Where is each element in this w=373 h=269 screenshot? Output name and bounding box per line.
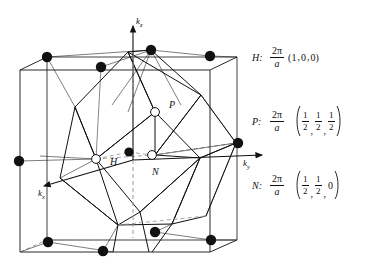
paren-close: ) [315,52,318,63]
lattice-point [42,52,52,62]
legend-coords-P: 1 2 , 1 2 , 1 2 [294,105,343,137]
coord-separator: , [310,125,315,136]
connector-h-lowleft [60,159,96,178]
coord-value: 0 [327,180,334,191]
bz-edge-lower-left [60,178,118,225]
connector-dot-to-h [96,67,101,159]
figure-canvas: kz ky kx P H N H: 2π a ( 1 , 0 , 0 ) [0,0,373,269]
prefactor-fraction-H: 2π a [270,46,284,69]
prefactor-fraction-N: 2π a [270,174,284,197]
point-label-P: P [169,99,175,110]
legend-symbol-P: P: [252,116,268,127]
legend-row-H: H: 2π a ( 1 , 0 , 0 ) [252,40,373,74]
cube-back-face [47,57,237,240]
bz-face-lower-right [172,143,236,224]
lattice-point [14,156,24,166]
coord-fraction: 1 2 [315,175,322,196]
bz-face-lower [118,158,200,225]
lattice-point [146,45,156,55]
connector-top-6 [151,50,210,56]
connector-h-left [19,159,96,161]
bz-edge-to-bottom-2 [140,212,149,252]
lattice-point [205,51,215,61]
ky-axis-label: ky [243,158,250,170]
kx-axis [44,160,133,186]
coord-separator: , [310,188,315,199]
prefactor-fraction-P: 2π a [270,110,284,133]
lattice-point [43,237,53,247]
kz-axis-label: kz [136,16,143,28]
coord-fraction: 1 2 [302,175,309,196]
lattice-point [233,138,243,148]
coord-separator: , [296,51,301,62]
coord-fraction: 1 2 [315,111,322,132]
connector-h-left2 [40,156,96,159]
connector-top-2 [112,50,151,105]
coord-separator: , [323,188,328,199]
symmetry-point-N [148,151,157,160]
lattice-point [206,235,216,245]
paren-close-big [336,105,343,137]
connector-corner-left [47,57,75,107]
symmetry-point-legend: H: 2π a ( 1 , 0 , 0 ) P: 2π a [252,40,373,232]
paren-open-big [294,170,301,200]
coord-separator: , [323,125,328,136]
lattice-point [96,62,106,72]
lattice-point [150,227,160,237]
connector-top-5 [151,50,181,105]
point-label-N: N [152,166,159,177]
legend-symbol-H: H: [252,52,268,63]
lattice-point-center [124,147,133,156]
coord-fraction: 1 2 [302,111,309,132]
connector-top-1 [101,50,151,67]
bz-face-upper-left [75,52,155,159]
symmetry-point-P [151,108,160,117]
lattice-point [98,246,108,256]
paren-open-big [294,105,301,137]
symmetry-point-H [92,155,101,164]
legend-symbol-N: N: [252,180,268,191]
point-label-H: H [110,156,117,167]
coord-separator: , [306,51,311,62]
kx-axis-label: kx [38,188,45,200]
paren-close-big [334,170,341,200]
legend-row-N: N: 2π a 1 2 , 1 2 [252,168,373,202]
legend-row-P: P: 2π a 1 2 , 1 2 [252,104,373,138]
connector-right-up [201,95,236,143]
legend-coords-H: ( 1 , 0 , 0 ) [288,52,319,63]
legend-coords-N: 1 2 , 1 2 , 0 [294,170,341,200]
coord-fraction: 1 2 [328,111,335,132]
